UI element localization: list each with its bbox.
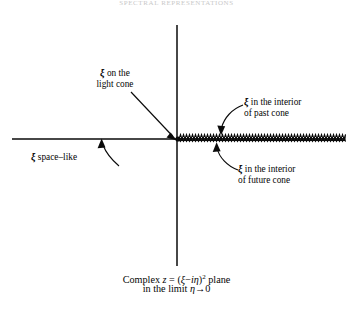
caption-arrow-zero: →0 [195,283,210,294]
label-space-like: ξ space–like [31,152,77,163]
label-past-cone-line2: of past cone [244,108,289,118]
arrow-future-cone [213,142,238,170]
branch-cut-hatching [175,134,345,141]
label-past-cone: ξ in the interior of past cone [244,97,301,118]
label-light-cone: ξ on the light cone [84,68,146,89]
caption-limit-text: in the limit [143,283,190,294]
label-space-like-text: space–like [36,152,78,162]
origin-point [175,136,180,141]
label-light-cone-line1: on the [105,68,130,78]
arrow-light-cone [131,92,177,141]
label-past-cone-line1: in the interior [249,97,302,107]
complex-z-plane-figure: SPECTRAL REPRESENTATIONS [0,0,353,311]
label-light-cone-line2: light cone [97,79,134,89]
arrow-space-like [98,139,119,167]
caption-line-2: in the limit η→0 [0,283,353,295]
label-future-cone-line1: in the interior [243,164,296,174]
arrow-past-cone [217,105,243,136]
label-future-cone: ξ in the interior of future cone [238,164,295,185]
label-future-cone-line2: of future cone [238,175,290,185]
